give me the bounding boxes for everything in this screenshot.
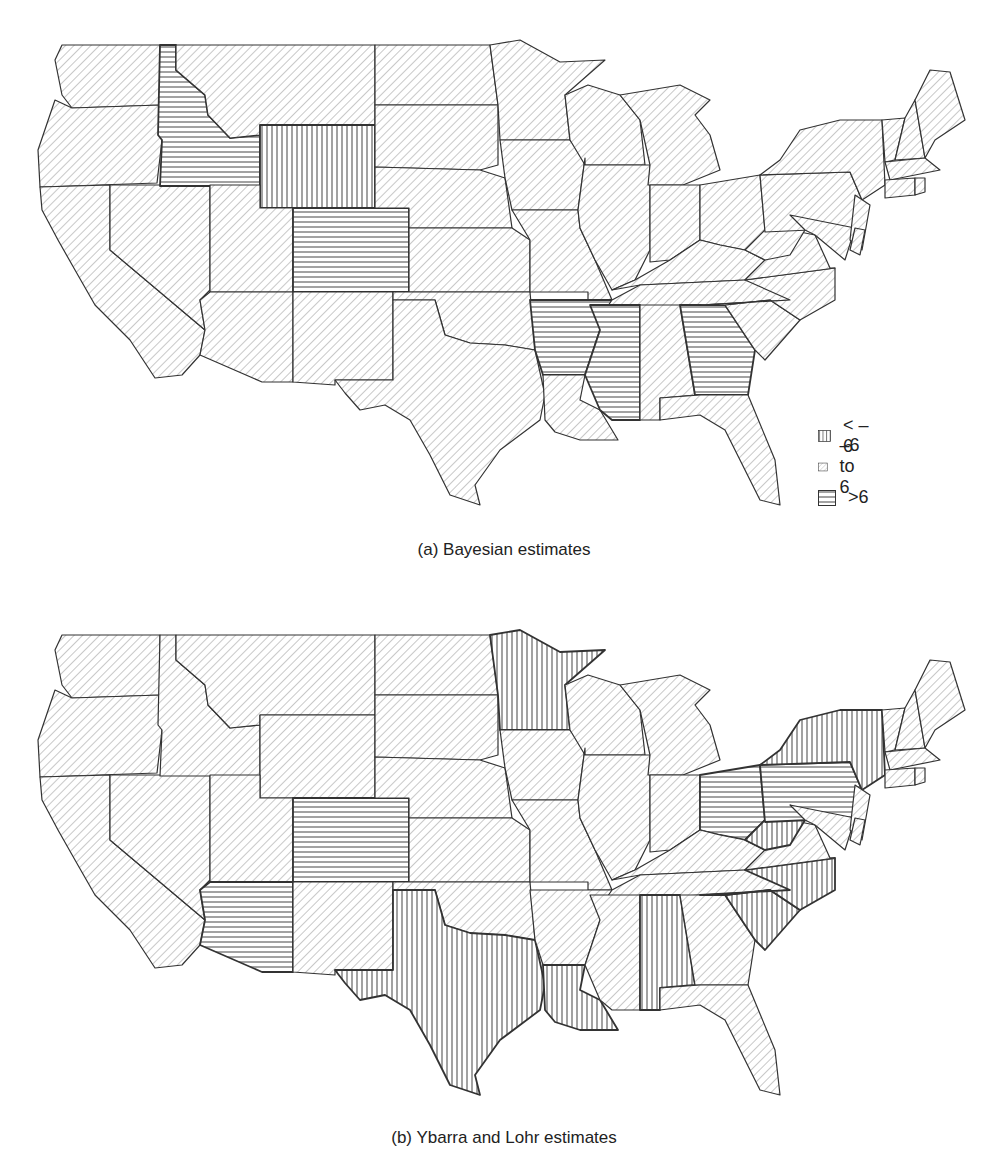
caption-b: (b) Ybarra and Lohr estimates bbox=[0, 1128, 1008, 1148]
vertical-hatch-swatch-icon bbox=[818, 428, 831, 444]
legend-item-mid: –6 to 6 bbox=[818, 451, 869, 482]
state-az bbox=[200, 292, 293, 382]
state-nm bbox=[293, 292, 393, 385]
state-az bbox=[200, 882, 293, 972]
state-wa bbox=[55, 45, 160, 108]
state-ia bbox=[500, 730, 585, 800]
state-ia bbox=[500, 140, 585, 210]
state-wy bbox=[260, 125, 375, 208]
state-wy bbox=[260, 715, 375, 798]
state-ri bbox=[915, 178, 925, 195]
state-ct bbox=[885, 768, 915, 788]
state-ks bbox=[409, 818, 530, 882]
us-choropleth-map-b bbox=[0, 590, 1008, 1130]
caption-a: (a) Bayesian estimates bbox=[0, 540, 1008, 560]
state-ma bbox=[885, 158, 940, 180]
state-nd bbox=[375, 635, 498, 695]
state-nd bbox=[375, 45, 498, 105]
state-nm bbox=[293, 882, 393, 975]
legend-label: >6 bbox=[848, 487, 869, 508]
state-co bbox=[293, 208, 409, 292]
state-ct bbox=[885, 178, 915, 198]
state-wa bbox=[55, 635, 160, 698]
state-me bbox=[915, 70, 965, 158]
state-co bbox=[293, 798, 409, 882]
state-sd bbox=[375, 105, 498, 170]
state-sd bbox=[375, 695, 498, 760]
state-ma bbox=[885, 748, 940, 770]
horizontal-hatch-swatch-icon bbox=[818, 490, 836, 506]
legend: < –6 –6 to 6 >6 bbox=[818, 420, 869, 513]
state-or bbox=[38, 100, 162, 187]
state-or bbox=[38, 690, 162, 777]
state-fl bbox=[660, 985, 780, 1095]
state-ri bbox=[915, 768, 925, 785]
state-me bbox=[915, 660, 965, 748]
state-fl bbox=[660, 395, 780, 505]
state-ks bbox=[409, 228, 530, 292]
state-oh bbox=[700, 175, 765, 250]
diagonal-hatch-swatch-icon bbox=[818, 459, 828, 475]
